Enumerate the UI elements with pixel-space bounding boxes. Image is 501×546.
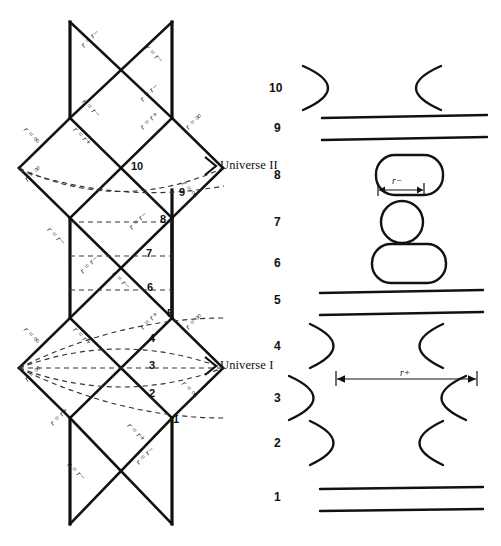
slice-number-5: 5 bbox=[167, 307, 173, 319]
embed-row-10-right bbox=[416, 66, 441, 110]
embed-row-4-right bbox=[420, 324, 444, 368]
embed-row-7-circle bbox=[381, 201, 423, 243]
embed-row-2-left bbox=[310, 421, 334, 465]
embed-row-5-line-bottom bbox=[320, 312, 483, 315]
embed-row-4-left bbox=[310, 324, 334, 368]
embed-row-3-right bbox=[442, 376, 467, 420]
r-plus-measure-label: r+ bbox=[400, 368, 410, 378]
embed-row-9-line-bottom bbox=[322, 137, 487, 140]
embed-row-number-4: 4 bbox=[274, 339, 281, 353]
embed-row-9-line-top bbox=[322, 115, 487, 118]
embed-row-number-5: 5 bbox=[274, 293, 281, 307]
slice-number-4: 4 bbox=[149, 332, 155, 344]
universe-ii-pointer bbox=[205, 157, 216, 175]
slice-number-6: 6 bbox=[147, 281, 153, 293]
embed-row-1-line-top bbox=[320, 487, 483, 489]
slice-number-8: 8 bbox=[160, 213, 166, 225]
universe-label-I: Universe I bbox=[220, 358, 273, 373]
r-minus-measure-label: r− bbox=[392, 176, 402, 186]
embed-row-number-1: 1 bbox=[274, 490, 281, 504]
embed-row-number-10: 10 bbox=[269, 81, 282, 95]
slice-number-10: 10 bbox=[131, 160, 143, 172]
universe-label-II: Universe II bbox=[220, 158, 278, 173]
embed-row-number-7: 7 bbox=[274, 215, 281, 229]
embed-row-6-rounded-rect bbox=[372, 244, 446, 283]
slice-number-2: 2 bbox=[149, 387, 155, 399]
embed-row-number-9: 9 bbox=[274, 121, 281, 135]
penrose-figure: Universe II Universe I 10 9 8 7 6 5 4 3 … bbox=[0, 0, 501, 546]
embed-row-5-line-top bbox=[320, 290, 483, 293]
slice-number-1: 1 bbox=[173, 413, 179, 425]
embed-row-number-2: 2 bbox=[274, 436, 281, 450]
universe-i-pointer bbox=[205, 357, 216, 375]
embed-row-8-rounded-rect bbox=[376, 155, 443, 195]
embed-row-number-8: 8 bbox=[274, 168, 281, 182]
slice-number-3: 3 bbox=[149, 359, 155, 371]
embed-row-2-right bbox=[420, 421, 444, 465]
embed-row-10-left bbox=[303, 66, 328, 110]
embed-row-number-6: 6 bbox=[274, 256, 281, 270]
slice-number-7: 7 bbox=[146, 247, 152, 259]
r-plus-arrowhead-left bbox=[337, 375, 345, 383]
r-plus-arrowhead-right bbox=[468, 375, 476, 383]
embed-row-1-line-bottom bbox=[320, 509, 483, 511]
embed-row-number-3: 3 bbox=[274, 391, 281, 405]
r-minus-arrowhead-right bbox=[417, 187, 423, 194]
embed-row-3-left bbox=[289, 376, 314, 420]
